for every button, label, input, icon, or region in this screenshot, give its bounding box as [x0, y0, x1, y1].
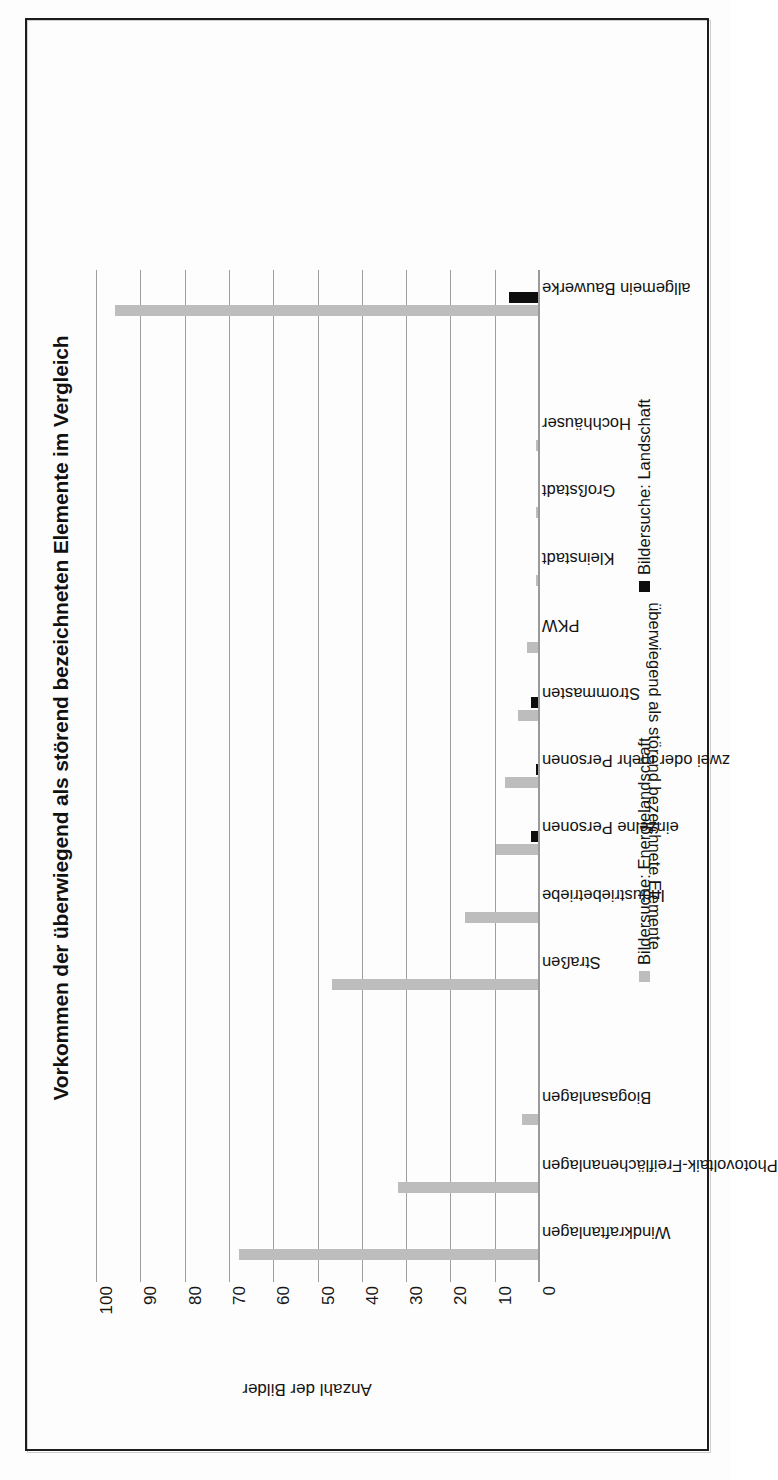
category-label: Biogasanlagen [542, 1088, 651, 1107]
y-axis-title: Anzahl der Bilder [97, 1369, 540, 1409]
plot-area: 0102030405060708090100 [97, 270, 540, 1282]
bar-group [97, 1012, 540, 1079]
bar-energielandschaft [398, 1182, 540, 1193]
bar-landschaft [509, 292, 540, 303]
bar-group [97, 472, 540, 539]
bar-group [97, 270, 540, 337]
legend-item[interactable]: Bildersuche: Landschaft [635, 399, 654, 592]
bar-group [97, 742, 540, 809]
category-label: Kleinstadt [542, 549, 614, 568]
y-axis-title-text: Anzahl der Bilder [127, 1379, 487, 1399]
bar-group [97, 540, 540, 607]
bar-group [97, 675, 540, 742]
bar-group [97, 337, 540, 404]
category-label: PKW [542, 616, 580, 635]
bar-energielandschaft [496, 844, 540, 855]
bar-energielandschaft [465, 912, 540, 923]
legend-label: Bildersuche: Energielandschaft [635, 738, 654, 965]
bar-energielandschaft [518, 710, 540, 721]
bar-group [97, 1147, 540, 1214]
bar-energielandschaft [239, 1249, 540, 1260]
bar-energielandschaft [115, 305, 540, 316]
bar-group [97, 810, 540, 877]
category-label: allgemein Bauwerke [542, 279, 691, 298]
bar-group [97, 945, 540, 1012]
category-label: Straßen [542, 953, 601, 972]
legend-swatch-icon [639, 971, 650, 982]
chart-title: Vorkommen der überwiegend als störend be… [49, 28, 73, 1408]
legend-item[interactable]: Bildersuche: Energielandschaft [635, 738, 654, 982]
legend-swatch-icon [639, 581, 650, 592]
zero-axis-line [538, 270, 540, 1282]
category-label: Großstadt [542, 481, 615, 500]
bar-group [97, 877, 540, 944]
category-label: Hochhäuser [542, 414, 631, 433]
bar-series-group [97, 270, 540, 1282]
bar-group [97, 405, 540, 472]
category-label: Strommasten [542, 684, 640, 703]
bar-group [97, 607, 540, 674]
category-labels: WindkraftanlagenPhotovoltaik-Freiflächen… [542, 270, 692, 1282]
bar-group [97, 1080, 540, 1147]
bar-energielandschaft [505, 777, 540, 788]
rotated-chart-stage: Vorkommen der überwiegend als störend be… [45, 28, 685, 1408]
legend-label: Bildersuche: Landschaft [635, 399, 654, 575]
bar-chart: Vorkommen der überwiegend als störend be… [45, 28, 685, 1408]
bar-energielandschaft [332, 979, 540, 990]
bar-group [97, 1215, 540, 1282]
